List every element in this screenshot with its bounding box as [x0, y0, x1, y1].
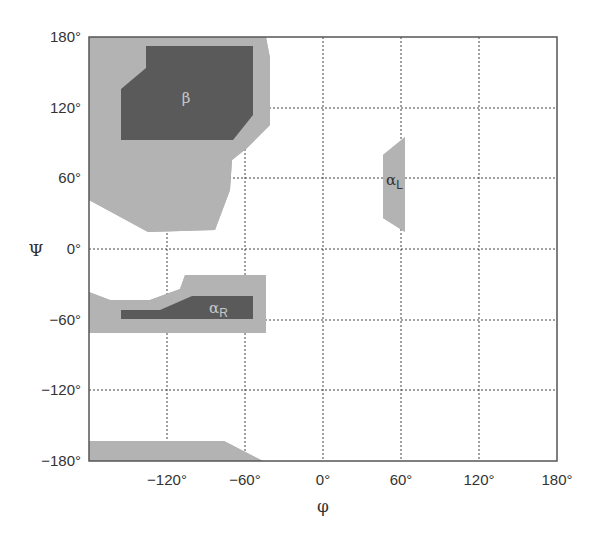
y-ticks: 180° 120° 60° 0° −60° −120° −180°: [41, 28, 81, 469]
bottom-band-overlay: [89, 441, 263, 461]
svg-text:0°: 0°: [316, 471, 330, 488]
svg-text:180°: 180°: [541, 471, 572, 488]
svg-text:120°: 120°: [463, 471, 494, 488]
x-ticks: −120° −60° 0° 60° 120° 180°: [147, 471, 572, 488]
svg-text:0°: 0°: [67, 240, 81, 257]
svg-text:−120°: −120°: [147, 471, 187, 488]
svg-text:−180°: −180°: [41, 452, 81, 469]
x-axis-label: φ: [317, 496, 329, 516]
svg-text:−120°: −120°: [41, 381, 81, 398]
ramachandran-plot: β αR αL 180° 120° 60° 0° −60° −120° −180…: [0, 0, 598, 540]
beta-label: β: [182, 89, 191, 107]
svg-text:−60°: −60°: [50, 311, 81, 328]
svg-text:120°: 120°: [50, 99, 81, 116]
svg-text:60°: 60°: [390, 471, 413, 488]
svg-text:180°: 180°: [50, 28, 81, 45]
y-axis-label: Ψ: [29, 240, 44, 260]
svg-text:−60°: −60°: [229, 471, 260, 488]
svg-text:60°: 60°: [58, 169, 81, 186]
